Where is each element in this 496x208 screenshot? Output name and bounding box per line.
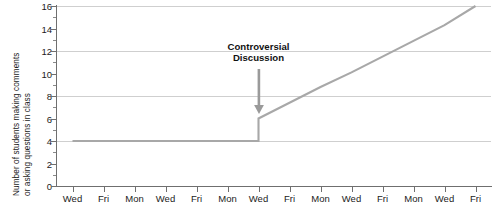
x-tick-label-0: Wed xyxy=(63,193,82,204)
arrow-head xyxy=(254,105,264,114)
x-tick-label-10: Fri xyxy=(377,193,388,204)
y-tick-label-0: 0 xyxy=(8,181,52,192)
plot-area xyxy=(57,6,491,186)
x-tick-label-5: Mon xyxy=(218,193,236,204)
y-tick-major-12 xyxy=(51,51,56,52)
y-tick-label-16: 16 xyxy=(8,1,52,12)
x-axis-line xyxy=(56,186,492,187)
x-tick-label-7: Fri xyxy=(284,193,295,204)
y-tick-minor-15 xyxy=(53,17,56,18)
data-series-line xyxy=(57,6,491,186)
series-line-0 xyxy=(73,6,476,141)
y-tick-major-10 xyxy=(51,74,56,75)
x-tick-label-12: Wed xyxy=(435,193,454,204)
y-tick-label-14: 14 xyxy=(8,23,52,34)
y-tick-major-0 xyxy=(51,186,56,187)
x-tick-label-8: Mon xyxy=(311,193,329,204)
y-tick-minor-13 xyxy=(53,40,56,41)
y-tick-minor-7 xyxy=(53,107,56,108)
x-tick-4 xyxy=(197,187,198,192)
chart-figure: Number of students making comments or as… xyxy=(0,0,496,208)
y-tick-major-4 xyxy=(51,141,56,142)
arrow-shaft xyxy=(257,69,260,106)
x-tick-3 xyxy=(166,187,167,192)
x-tick-2 xyxy=(135,187,136,192)
x-tick-8 xyxy=(321,187,322,192)
x-tick-10 xyxy=(383,187,384,192)
annotation-line-1: Controversial xyxy=(228,41,290,53)
x-tick-9 xyxy=(352,187,353,192)
y-tick-major-6 xyxy=(51,119,56,120)
x-tick-12 xyxy=(445,187,446,192)
y-tick-major-8 xyxy=(51,96,56,97)
x-tick-label-2: Mon xyxy=(125,193,143,204)
y-axis-tick-labels: 0246810121416 xyxy=(0,0,52,208)
down-arrow-icon xyxy=(253,69,264,114)
y-tick-label-6: 6 xyxy=(8,113,52,124)
x-tick-label-1: Fri xyxy=(98,193,109,204)
annotation-line-2: Discussion xyxy=(228,52,290,64)
y-tick-major-16 xyxy=(51,6,56,7)
x-tick-label-9: Wed xyxy=(342,193,361,204)
y-tick-label-12: 12 xyxy=(8,46,52,57)
x-tick-label-11: Mon xyxy=(404,193,422,204)
y-tick-label-4: 4 xyxy=(8,136,52,147)
y-tick-label-10: 10 xyxy=(8,68,52,79)
y-tick-label-8: 8 xyxy=(8,91,52,102)
x-tick-label-3: Wed xyxy=(156,193,175,204)
x-tick-7 xyxy=(290,187,291,192)
x-tick-13 xyxy=(476,187,477,192)
x-tick-label-6: Wed xyxy=(249,193,268,204)
y-tick-minor-9 xyxy=(53,85,56,86)
y-tick-minor-3 xyxy=(53,152,56,153)
x-tick-0 xyxy=(73,187,74,192)
annotation-controversial-discussion: Controversial Discussion xyxy=(228,41,290,64)
y-tick-label-2: 2 xyxy=(8,158,52,169)
y-tick-minor-5 xyxy=(53,130,56,131)
x-tick-label-13: Fri xyxy=(470,193,481,204)
y-tick-major-2 xyxy=(51,164,56,165)
y-tick-major-14 xyxy=(51,29,56,30)
y-tick-minor-11 xyxy=(53,62,56,63)
y-tick-minor-1 xyxy=(53,175,56,176)
y-axis-line xyxy=(56,5,57,187)
x-tick-5 xyxy=(228,187,229,192)
x-tick-11 xyxy=(414,187,415,192)
x-tick-label-4: Fri xyxy=(191,193,202,204)
x-tick-1 xyxy=(104,187,105,192)
x-tick-6 xyxy=(259,187,260,192)
